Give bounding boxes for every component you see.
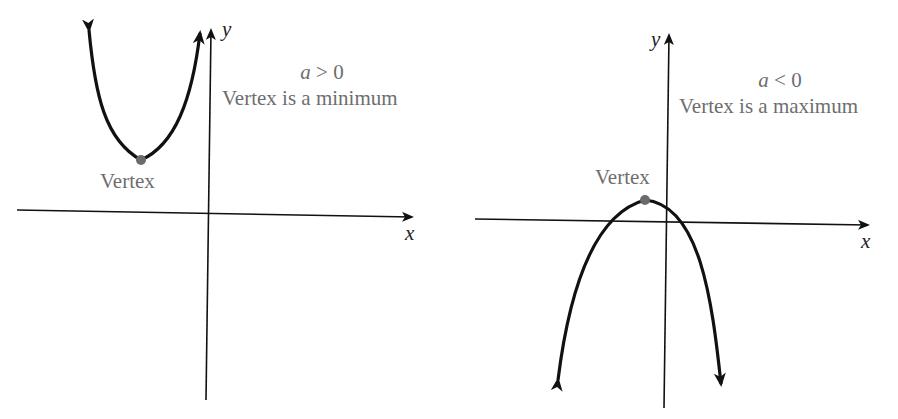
- panel-upward-parabola: Vertex y x a > 0 Vertex is a minimum: [17, 17, 415, 400]
- x-axis: [475, 219, 868, 225]
- vertex-label: Vertex: [100, 169, 155, 193]
- panel-downward-parabola: Vertex y x a < 0 Vertex is a maximum: [475, 27, 871, 408]
- vertex-dot: [640, 195, 650, 205]
- vertex-dot: [136, 155, 146, 165]
- condition-label: a < 0: [758, 68, 801, 92]
- x-axis-label: x: [860, 229, 871, 253]
- description-label: Vertex is a minimum: [222, 86, 398, 110]
- parabola-curve-up: [89, 30, 200, 160]
- y-axis: [206, 30, 211, 400]
- y-axis-label: y: [220, 17, 232, 41]
- parabola-diagram: Vertex y x a > 0 Vertex is a minimum Ver…: [0, 0, 898, 419]
- x-axis: [17, 210, 412, 217]
- x-axis-label: x: [404, 221, 415, 245]
- vertex-label: Vertex: [595, 165, 650, 189]
- condition-label: a > 0: [300, 60, 343, 84]
- parabola-curve-down: [558, 200, 721, 384]
- description-label: Vertex is a maximum: [679, 94, 858, 118]
- y-axis-label: y: [649, 27, 661, 51]
